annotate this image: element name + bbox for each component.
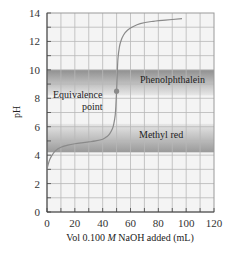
x-tick-label: 100 [178, 217, 195, 229]
y-tick-label: 2 [35, 178, 41, 190]
x-tick-label: 60 [125, 217, 137, 229]
y-tick-label: 8 [35, 92, 41, 104]
x-tick-label: 20 [69, 217, 81, 229]
x-tick-label: 40 [97, 217, 109, 229]
titration-chart: 02040608010012002468101214 Equivalence p… [0, 0, 230, 255]
x-axis-title-pre: Vol 0.100 [66, 232, 107, 243]
y-tick-label: 12 [29, 35, 40, 47]
equivalence-label-line1: Equivalence [53, 89, 103, 100]
equivalence-point-marker [114, 89, 119, 94]
x-axis-title: Vol 0.100 M NaOH added (mL) [66, 232, 194, 244]
x-tick-label: 80 [153, 217, 165, 229]
y-tick-label: 10 [29, 64, 41, 76]
y-tick-label: 6 [35, 121, 41, 133]
x-tick-label: 0 [44, 217, 50, 229]
x-tick-label: 120 [206, 217, 223, 229]
x-axis-title-post: NaOH added (mL) [116, 232, 194, 244]
y-axis-title: pH [11, 106, 22, 118]
phenolphthalein-label: Phenolphthalein [140, 74, 205, 85]
equivalence-label-line2: point [82, 101, 103, 112]
methyl-red-label: Methyl red [139, 129, 183, 140]
y-tick-label: 0 [35, 206, 41, 218]
y-tick-label: 14 [29, 7, 41, 19]
y-tick-label: 4 [35, 149, 41, 161]
